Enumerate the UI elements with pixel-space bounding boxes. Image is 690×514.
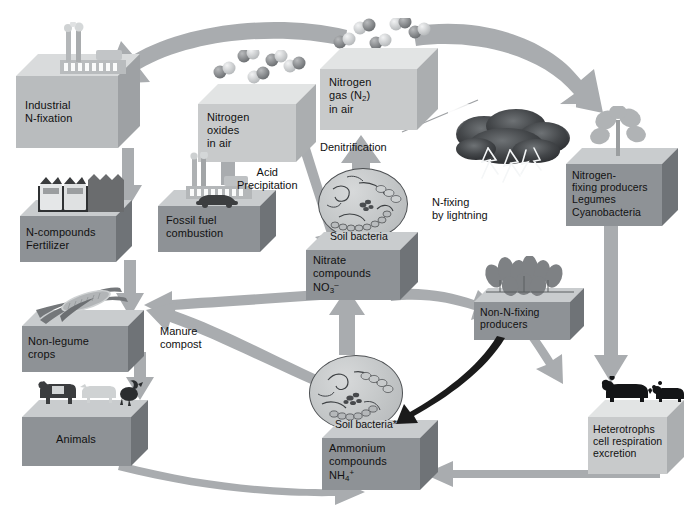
box-label-line1: Nitrogen (329, 76, 371, 89)
box-label: Ammonium compounds NH4+ (329, 442, 387, 482)
box-label: Nitrogen- fixing producers Legumes Cyano… (572, 169, 648, 218)
seedling-icon (584, 106, 654, 158)
box-animals: Animals (22, 400, 148, 466)
livestock-icon (34, 376, 146, 408)
nitrate-line3: NO3– (313, 280, 371, 295)
box-label: Heterotrophs cell respiration excretion (593, 423, 662, 460)
box-label: N-compounds Fertilizer (26, 226, 96, 252)
box-nitrogen-gas: Nitrogen gas (N2) in air (320, 48, 438, 130)
label-n-fixing-by-lightning: N-fixing by lightning (432, 196, 488, 222)
box-label: Non-N-fixing producers (480, 306, 540, 330)
box-label: Industrial N-fixation (25, 99, 72, 125)
ammonium-line2: compounds (329, 455, 387, 468)
plants-icon (480, 256, 580, 296)
arrow-n2-to-nfixing (413, 24, 603, 113)
box-label: Nitrogen oxides in air (207, 111, 249, 149)
box-fossil-fuel-combustion: Fossil fuel combustion (158, 190, 276, 252)
box-label-line2: gas (N2) (329, 89, 371, 103)
box-n-compounds-fertilizer: N-compounds Fertilizer (20, 200, 132, 262)
fertilizer-sacks-icon (36, 172, 130, 214)
box-label: Nitrate compounds NO3– (313, 254, 371, 294)
nitrogen-cycle-diagram: Industrial N-fixation N-compounds Fertil… (0, 0, 690, 514)
box-label: Fossil fuel combustion (166, 214, 223, 240)
n2-molecules-icon (330, 18, 432, 52)
ammonium-line1: Ammonium (329, 442, 387, 455)
box-label: Animals (56, 433, 96, 446)
bears-icon (600, 376, 686, 404)
box-label: Nitrogen gas (N2) in air (329, 76, 371, 116)
box-label-line3: in air (329, 103, 371, 116)
box-heterotrophs: Heterotrophs cell respiration excretion (588, 400, 684, 474)
box-nitrogen-oxides: Nitrogen oxides in air (198, 84, 316, 162)
label-denitrification: Denitrification (320, 141, 387, 154)
nitrate-line1: Nitrate (313, 254, 371, 267)
label-acid-precipitation: Acid Precipitation (237, 166, 298, 192)
box-top-face (198, 84, 316, 104)
box-ammonium-compounds: Ammonium compounds NH4+ (322, 420, 438, 490)
box-industrial-n-fixation: Industrial N-fixation (16, 54, 140, 148)
box-nitrogen-fixing-producers: Nitrogen- fixing producers Legumes Cyano… (566, 148, 678, 226)
factory-icon (38, 22, 134, 80)
nitrate-line2: compounds (313, 267, 371, 280)
corn-icon (34, 280, 136, 326)
arrow-nfixing-to-heterotrophs (594, 226, 628, 383)
nitrate-box-header: Soil bacteria (330, 230, 388, 242)
box-label: Non-legume crops (28, 335, 89, 361)
ammonium-box-header: Soil bacteria* (335, 418, 397, 430)
ammonium-line3: NH4+ (329, 468, 387, 483)
box-non-legume-crops: Non-legume crops (22, 310, 144, 372)
lightning-cloud-icon (448, 104, 576, 204)
box-non-n-fixing-producers: Non-N-fixing producers (474, 288, 584, 340)
no-molecules-icon (210, 50, 310, 88)
label-manure-compost: Manure compost (160, 325, 202, 351)
